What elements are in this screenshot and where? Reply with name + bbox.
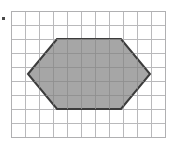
hexagon-on-grid-figure (0, 0, 179, 144)
hexagon-shape (28, 39, 150, 109)
shape-layer (28, 39, 150, 109)
figure-container (0, 0, 179, 144)
